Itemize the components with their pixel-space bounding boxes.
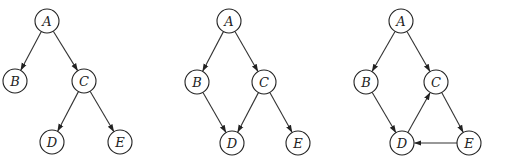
node-label: A — [223, 14, 233, 29]
node-label: E — [292, 136, 303, 151]
node-d: D — [40, 130, 64, 154]
node-label: A — [395, 14, 405, 29]
edge-a-to-c — [53, 31, 77, 70]
node-label: E — [463, 136, 474, 151]
graph-1: ABCDE — [3, 9, 132, 154]
node-b: B — [354, 70, 378, 94]
edge-c-to-d — [58, 92, 79, 131]
node-label: D — [226, 136, 238, 151]
node-b: B — [185, 70, 209, 94]
edge-a-to-c — [235, 31, 258, 71]
node-label: D — [396, 136, 408, 151]
edge-c-to-e — [270, 92, 292, 132]
graph-3: ABCDE — [354, 9, 481, 155]
node-label: C — [259, 75, 269, 90]
node-label: C — [431, 75, 441, 90]
node-a: A — [389, 9, 413, 33]
node-a: A — [217, 9, 241, 33]
node-e: E — [108, 130, 132, 154]
edge-c-to-e — [442, 93, 463, 132]
node-c: C — [424, 70, 448, 94]
edge-a-to-b — [203, 32, 224, 71]
edge-b-to-d — [372, 92, 396, 132]
node-label: B — [360, 75, 371, 90]
node-d: D — [220, 131, 244, 155]
node-c: C — [252, 70, 276, 94]
edge-a-to-b — [372, 31, 395, 71]
node-a: A — [35, 9, 59, 33]
edge-c-to-e — [90, 91, 114, 131]
node-label: E — [114, 135, 125, 150]
node-label: C — [79, 74, 89, 89]
edge-a-to-c — [407, 31, 430, 71]
node-label: D — [46, 135, 58, 150]
edge-c-to-d — [238, 93, 259, 132]
node-label: A — [41, 14, 51, 29]
graph-2: ABCDE — [185, 9, 310, 155]
node-b: B — [3, 69, 27, 93]
node-c: C — [72, 69, 96, 93]
node-label: B — [191, 75, 202, 90]
node-e: E — [457, 131, 481, 155]
node-label: B — [9, 74, 20, 89]
edge-b-to-d — [203, 92, 226, 132]
diagram-canvas: ABCDEABCDEABCDE — [0, 0, 505, 164]
edge-a-to-b — [21, 32, 41, 70]
edge-d-to-c — [408, 93, 430, 133]
node-d: D — [390, 131, 414, 155]
node-e: E — [286, 131, 310, 155]
